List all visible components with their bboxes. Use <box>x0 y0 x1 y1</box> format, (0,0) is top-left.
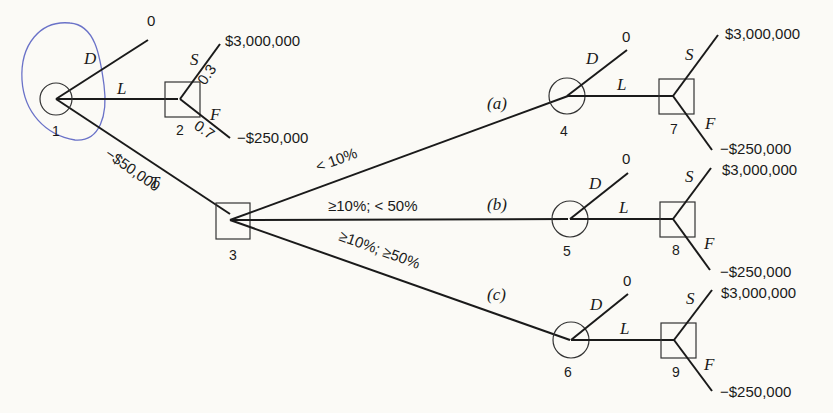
branch-a-tag: (a) <box>487 94 507 113</box>
payoff-4-drop: 0 <box>622 28 630 45</box>
payoff-8-failure: −$250,000 <box>720 263 791 280</box>
label-1-launch: L <box>116 79 126 98</box>
label-4-drop: D <box>585 49 599 68</box>
branch-a-label: < 10% <box>313 144 359 175</box>
branch-c-tag: (c) <box>487 285 506 304</box>
branch-b-tag: (b) <box>487 195 507 214</box>
payoff-9-failure: −$250,000 <box>720 383 791 400</box>
edge-7-success <box>673 35 718 96</box>
node-3-label: 3 <box>229 247 237 263</box>
node-2-label: 2 <box>176 122 184 138</box>
payoff-7-failure: −$250,000 <box>720 140 791 157</box>
label-5-drop: D <box>588 174 602 193</box>
label-9-failure: F <box>703 355 715 374</box>
node-5-label: 5 <box>563 243 571 259</box>
label-2-failure: F <box>209 105 221 124</box>
branch-b-label: ≥10%; < 50% <box>328 197 418 214</box>
node-4-label: 4 <box>560 123 568 139</box>
node-6-label: 6 <box>564 364 572 380</box>
decision-tree-diagram: 1 2 3 4 5 6 7 8 9 D 0 L T −$50,000 S 0.3… <box>0 0 833 413</box>
label-9-success: S <box>686 289 695 308</box>
edge-3-b <box>230 219 568 220</box>
payoff-2-failure: −$250,000 <box>237 129 308 146</box>
node-1-label: 1 <box>52 123 60 139</box>
node-7-label: 7 <box>670 121 678 137</box>
payoff-1-drop: 0 <box>147 12 155 29</box>
label-7-failure: F <box>704 114 716 133</box>
payoff-6-drop: 0 <box>623 272 631 289</box>
label-1-drop: D <box>83 49 97 68</box>
tree-canvas: 1 2 3 4 5 6 7 8 9 D 0 L T −$50,000 S 0.3… <box>0 0 833 413</box>
label-7-success: S <box>685 45 694 64</box>
label-6-drop: D <box>589 295 603 314</box>
branch-c-label: ≥10%; ≥50% <box>337 227 423 272</box>
label-8-success: S <box>685 167 694 186</box>
label-5-launch: L <box>618 198 628 217</box>
payoff-5-drop: 0 <box>622 150 630 167</box>
label-8-failure: F <box>703 234 715 253</box>
edge-3-c <box>230 220 570 340</box>
test-cost-label: −$50,000 <box>102 145 163 195</box>
edge-1-test <box>56 99 230 214</box>
node-8-label: 8 <box>672 242 680 258</box>
label-4-launch: L <box>616 75 626 94</box>
payoff-2-success: $3,000,000 <box>225 32 300 49</box>
payoff-8-success: $3,000,000 <box>722 161 797 178</box>
label-2-success: S <box>190 50 199 69</box>
label-6-launch: L <box>619 319 629 338</box>
payoff-9-success: $3,000,000 <box>721 284 796 301</box>
node-9-label: 9 <box>672 364 680 380</box>
payoff-7-success: $3,000,000 <box>725 25 800 42</box>
